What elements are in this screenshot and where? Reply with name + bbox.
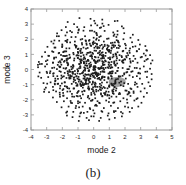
data-point xyxy=(100,67,102,69)
data-point xyxy=(128,93,130,95)
data-point xyxy=(89,55,91,57)
data-point xyxy=(92,86,94,88)
data-point xyxy=(89,108,91,110)
data-point xyxy=(45,87,47,89)
data-point xyxy=(69,57,71,59)
data-point xyxy=(86,43,88,45)
data-point xyxy=(114,117,116,119)
data-point xyxy=(151,78,153,80)
data-point xyxy=(84,57,86,59)
data-point xyxy=(124,59,126,61)
data-point xyxy=(116,57,118,59)
data-point xyxy=(77,102,79,104)
data-point xyxy=(99,73,101,75)
data-point xyxy=(61,59,63,61)
data-point xyxy=(94,94,96,96)
data-point xyxy=(118,76,120,78)
data-point xyxy=(94,72,96,74)
data-point xyxy=(141,56,143,58)
data-point xyxy=(125,47,127,49)
data-point xyxy=(74,70,76,72)
data-point xyxy=(117,34,119,36)
data-point xyxy=(137,62,139,64)
data-point xyxy=(95,46,97,48)
data-point xyxy=(101,19,103,21)
data-point xyxy=(123,82,125,84)
data-point xyxy=(97,78,99,80)
data-point xyxy=(136,67,138,69)
data-point xyxy=(80,112,82,114)
data-point xyxy=(105,52,107,54)
data-point xyxy=(104,87,106,89)
data-point xyxy=(78,48,80,50)
data-point xyxy=(54,80,56,82)
data-point xyxy=(134,100,136,102)
data-point xyxy=(79,66,81,68)
data-point xyxy=(72,73,74,75)
data-point xyxy=(129,52,131,54)
data-point xyxy=(71,96,73,98)
data-point xyxy=(100,71,102,73)
data-point xyxy=(121,116,123,118)
data-point xyxy=(114,34,116,36)
data-point xyxy=(91,88,93,90)
data-point xyxy=(80,50,82,52)
data-point xyxy=(58,40,60,42)
data-point xyxy=(137,86,139,88)
data-point xyxy=(107,87,109,89)
data-point xyxy=(109,57,111,59)
data-point xyxy=(145,45,147,47)
data-point xyxy=(51,41,53,43)
data-point xyxy=(81,38,83,40)
data-point xyxy=(95,50,97,52)
data-point xyxy=(77,70,79,72)
data-point xyxy=(144,88,146,90)
data-point xyxy=(110,64,112,66)
data-point xyxy=(53,67,55,69)
data-point xyxy=(73,53,75,55)
data-point xyxy=(63,95,65,97)
data-point xyxy=(45,60,47,62)
data-point xyxy=(108,61,110,63)
data-point xyxy=(146,59,148,61)
data-point xyxy=(102,51,104,53)
data-point xyxy=(88,69,90,71)
data-point xyxy=(44,51,46,53)
data-point xyxy=(104,93,106,95)
data-point xyxy=(92,90,94,92)
data-point xyxy=(68,71,70,73)
data-point xyxy=(66,48,68,50)
data-point xyxy=(55,91,57,93)
data-point xyxy=(83,84,85,86)
data-point xyxy=(116,63,118,65)
data-point xyxy=(84,78,86,80)
data-point xyxy=(53,51,55,53)
data-point xyxy=(116,56,118,58)
data-point xyxy=(137,39,139,41)
data-point xyxy=(99,47,101,49)
data-point xyxy=(57,83,59,85)
data-point xyxy=(112,91,114,93)
data-point xyxy=(101,77,103,79)
data-point xyxy=(89,39,91,41)
data-point xyxy=(59,94,61,96)
data-point xyxy=(85,81,87,83)
data-point xyxy=(67,21,69,23)
data-point xyxy=(117,51,119,53)
data-point xyxy=(50,82,52,84)
data-point xyxy=(68,76,70,78)
data-point xyxy=(75,107,77,109)
data-point xyxy=(74,79,76,81)
data-point xyxy=(53,58,55,60)
data-point xyxy=(73,88,75,90)
data-point xyxy=(149,85,151,87)
data-point xyxy=(96,86,98,88)
data-point xyxy=(99,88,101,90)
data-point xyxy=(116,36,118,38)
data-point xyxy=(146,71,148,73)
data-point xyxy=(73,81,75,83)
data-point xyxy=(84,68,86,70)
data-point xyxy=(78,81,80,83)
data-point xyxy=(86,77,88,79)
data-point xyxy=(143,96,145,98)
